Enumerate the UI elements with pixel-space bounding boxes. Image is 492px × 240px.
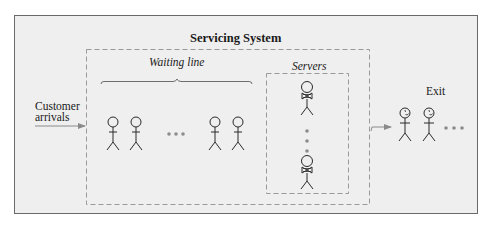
server-icon [301,82,313,116]
ellipsis-dot-icon [305,139,309,143]
server-icon [301,156,313,190]
exited-customer-icon [423,108,435,141]
waiting-customer-icon [232,117,244,150]
ellipsis-dot-icon [174,132,178,136]
exit-arrow-icon [371,127,391,131]
ellipsis-dot-icon [460,126,464,130]
ellipsis-dot-icon [305,149,309,153]
waiting-line-label: Waiting line [149,57,204,69]
exited-customer-icon [399,108,411,141]
exit-label: Exit [426,86,445,98]
ellipsis-dot-icon [167,132,171,136]
ellipsis-dot-icon [181,132,185,136]
diagram-title: Servicing System [190,32,281,45]
servers-label: Servers [292,61,327,73]
ellipsis-dot-icon [444,126,448,130]
waiting-line-brace [101,79,252,84]
waiting-customer-icon [209,117,221,150]
servicing-system-boundary [87,50,370,205]
waiting-customer-icon [130,117,142,150]
arrivals-label-line2: arrivals [35,112,69,124]
ellipsis-dot-icon [452,126,456,130]
waiting-customer-icon [107,117,119,150]
ellipsis-dot-icon [305,129,309,133]
